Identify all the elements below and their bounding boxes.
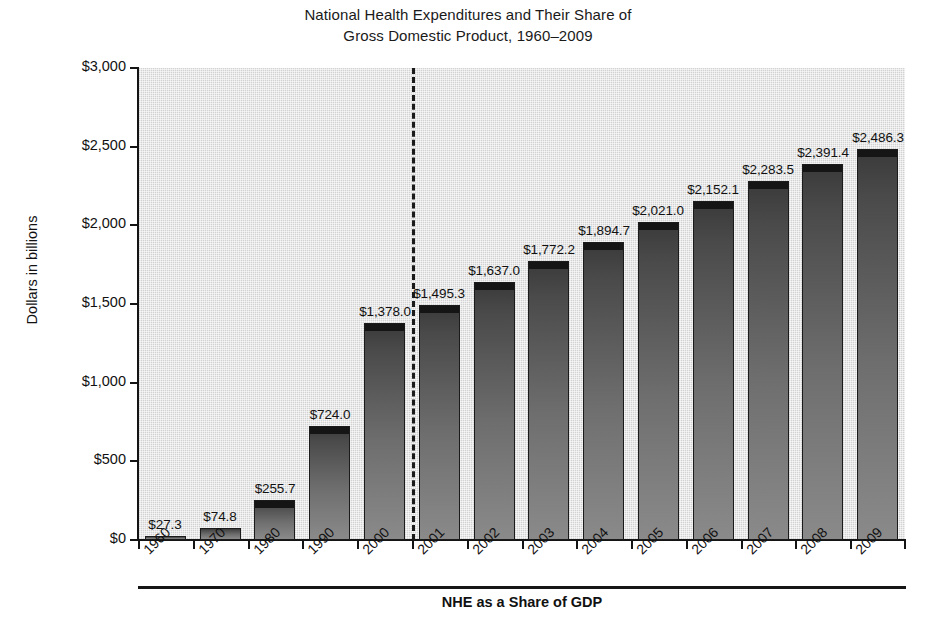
bar-cap [584,243,623,250]
bar-value-label: $1,772.2 [503,242,595,257]
y-axis-tick-label: $2,500 [22,137,126,153]
bar [528,261,569,540]
y-axis-tick-label: $500 [22,451,126,467]
gdp-share-row [138,626,906,635]
bar [693,201,734,540]
bar-value-label: $1,637.0 [448,263,540,278]
bar-value-label: $1,378.0 [339,304,431,319]
bar [802,164,843,540]
y-axis-tick-label: $0 [22,530,126,546]
bar-value-label: $1,894.7 [558,223,650,238]
bar-cap [639,223,678,230]
bar-cap [529,262,568,269]
y-axis-tick [130,146,139,148]
bar-value-label: $255.7 [229,481,321,496]
bar-cap [310,427,349,434]
bar [638,222,679,540]
bar-value-label: $724.0 [284,407,376,422]
bar [857,149,898,540]
y-axis-tick-label: $3,000 [22,58,126,74]
chart-title-line-1: National Health Expenditures and Their S… [0,4,936,25]
y-axis-tick [130,67,139,69]
bar-cap [420,306,459,313]
footer-title: NHE as a Share of GDP [138,594,906,610]
bar-cap [365,324,404,331]
page-title: National Health Expenditures and Their S… [0,4,936,46]
bar-value-label: $2,021.0 [612,203,704,218]
y-axis-tick [130,539,139,541]
bar-cap [694,202,733,209]
y-axis-tick [130,460,139,462]
x-axis-tick [904,540,906,549]
footer-divider [138,586,906,589]
bar-cap [803,165,842,172]
bar-value-label: $2,152.1 [667,182,759,197]
bar [474,282,515,540]
bar-cap [749,182,788,189]
bar [583,242,624,540]
y-axis-tick [130,382,139,384]
bar-value-label: $1,495.3 [393,286,485,301]
y-axis-tick [130,224,139,226]
y-axis-tick [130,303,139,305]
plot-area [138,68,905,540]
bar [419,305,460,540]
bar-cap [475,283,514,290]
bar-value-label: $2,486.3 [832,130,924,145]
bar-value-label: $2,283.5 [722,162,814,177]
bar-cap [858,150,897,157]
projection-divider-line [412,68,415,540]
chart-title-line-2: Gross Domestic Product, 1960–2009 [0,25,936,46]
y-axis-title: Dollars in billions [24,160,40,380]
bar-value-label: $2,391.4 [777,145,869,160]
bar [748,181,789,540]
